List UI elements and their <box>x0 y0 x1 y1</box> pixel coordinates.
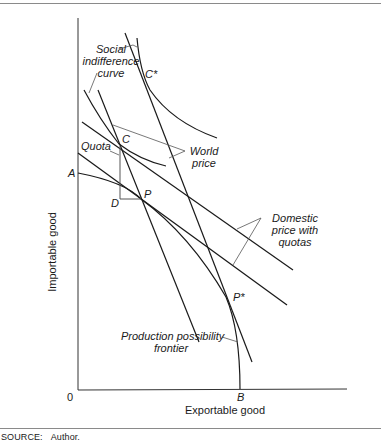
point-label-c-star: C* <box>145 68 157 80</box>
bottom-rule <box>0 428 381 429</box>
indifference-curve-c <box>84 90 166 166</box>
point-label-b: B <box>237 391 244 403</box>
point-label-d: D <box>111 197 119 209</box>
leader-quota <box>110 151 119 155</box>
source-value: Author. <box>51 432 80 442</box>
y-axis-label: Importable good <box>46 212 58 292</box>
world-price-line-c <box>98 90 199 342</box>
annotation-world-price: World price <box>184 145 224 169</box>
annotation-quota: Quota <box>81 140 111 152</box>
annotation-line: Domestic <box>259 212 331 224</box>
annotation-social-indifference-curve: Social indifference curve <box>78 43 144 79</box>
annotation-domestic-price: Domestic price with quotas <box>259 212 331 248</box>
source-label: SOURCE: <box>1 432 43 442</box>
annotation-line: quotas <box>259 236 331 248</box>
origin-label: 0 <box>67 391 73 403</box>
annotation-line: indifference <box>78 55 144 67</box>
annotation-line: Social <box>78 43 144 55</box>
annotation-line: World <box>184 145 224 157</box>
leader-ppf <box>222 337 238 342</box>
point-label-a: A <box>68 167 75 179</box>
x-axis <box>78 389 347 390</box>
annotation-line: frontier <box>121 342 221 354</box>
leader-domestic-price <box>233 218 261 265</box>
annotation-ppf: Production possibility frontier <box>121 330 221 354</box>
source-note: SOURCE:Author. <box>1 432 88 442</box>
domestic-price-line-lower <box>78 153 287 305</box>
indifference-curve-c-star <box>137 38 217 138</box>
point-label-p-star: P* <box>233 291 245 303</box>
point-label-p: P <box>144 188 151 200</box>
annotation-line: Production possibility <box>121 330 221 342</box>
production-possibility-frontier <box>78 173 240 389</box>
annotation-line: price <box>184 157 224 169</box>
annotation-line: curve <box>78 67 144 79</box>
annotation-line: price with <box>259 224 331 236</box>
point-label-c: C <box>122 133 130 145</box>
x-axis-label: Exportable good <box>170 404 280 416</box>
